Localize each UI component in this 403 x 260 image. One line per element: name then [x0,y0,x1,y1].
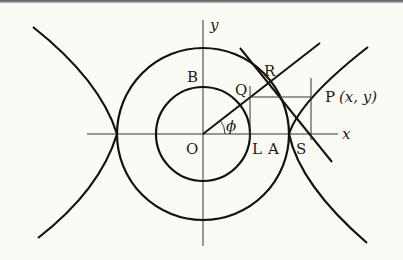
label-P: P [325,88,335,106]
label-A: A [267,140,279,158]
label-y-axis: y [209,16,219,34]
label-origin: O [186,140,198,158]
label-P-coords: (x, y) [339,88,377,106]
diagram-canvas: y x O B Q R P (x, y) ϕ L A S [0,0,403,260]
label-phi: ϕ [226,117,236,135]
label-Q: Q [235,81,247,99]
label-L: L [252,140,262,158]
angle-arc-phi [220,120,225,134]
label-S: S [296,140,306,158]
hyperbola-left-branch [33,27,117,238]
label-R: R [264,62,276,80]
label-B: B [187,68,198,86]
label-x-axis: x [342,125,351,143]
